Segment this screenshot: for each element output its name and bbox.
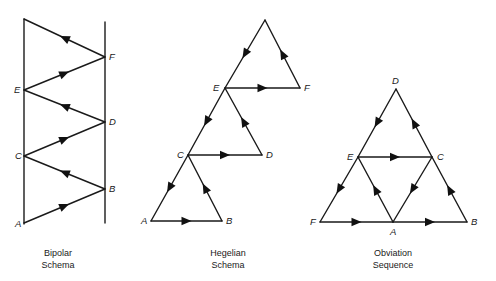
obviation-sequence-caption: Obviation Sequence: [348, 248, 438, 271]
caption-line-2: Schema: [13, 260, 103, 272]
vertex-label-D: D: [392, 75, 399, 86]
bipolar-schema-caption: Bipolar Schema: [13, 248, 103, 271]
arrowhead-icon: [239, 48, 251, 61]
hegelian-schema-caption: Hegelian Schema: [183, 248, 273, 271]
caption-line-1: Bipolar: [13, 248, 103, 260]
vertex-label-F: F: [109, 51, 116, 62]
caption-line-2: Schema: [183, 260, 273, 272]
caption-line-1: Hegelian: [183, 248, 273, 260]
arrowhead-icon: [58, 133, 70, 145]
caption-line-2: Sequence: [348, 260, 438, 272]
vertex-label-C: C: [437, 151, 444, 162]
arrowhead-icon: [58, 100, 70, 111]
obviation-sequence-diagram: DECFAB: [310, 75, 478, 237]
arrowhead-icon: [276, 48, 288, 61]
arrowhead-icon: [390, 153, 400, 161]
vertex-label-B: B: [226, 215, 233, 226]
vertex-label-E: E: [347, 151, 354, 162]
vertex-label-A: A: [140, 215, 147, 226]
arrowhead-icon: [408, 117, 420, 130]
arrowhead-icon: [406, 183, 418, 196]
vertex-label-A: A: [389, 226, 396, 237]
arrowhead-icon: [58, 200, 70, 212]
arrowhead-icon: [258, 84, 268, 92]
vertex-label-E: E: [213, 82, 220, 93]
arrowhead-icon: [200, 115, 212, 128]
arrowhead-icon: [443, 183, 455, 196]
caption-line-1: Obviation: [348, 248, 438, 260]
vertex-label-F: F: [304, 82, 311, 93]
arrowhead-icon: [425, 218, 435, 226]
vertex-label-B: B: [109, 183, 116, 194]
arrowhead-icon: [163, 182, 175, 195]
arrowhead-icon: [182, 217, 192, 225]
arrowhead-icon: [58, 167, 70, 179]
arrowhead-icon: [58, 68, 70, 80]
hegelian-schema-diagram: ABCDEF: [140, 20, 311, 226]
vertex-label-C: C: [177, 149, 184, 160]
arrowhead-icon: [58, 32, 71, 44]
vertex-label-F: F: [310, 216, 317, 227]
vertex-label-A: A: [14, 218, 21, 229]
arrowhead-icon: [220, 151, 230, 159]
arrowhead-icon: [352, 218, 362, 226]
arrowhead-icon: [199, 182, 211, 195]
arrowhead-icon: [333, 183, 345, 196]
vertex-label-B: B: [471, 216, 478, 227]
arrowhead-icon: [237, 115, 249, 128]
vertex-label-E: E: [14, 84, 21, 95]
vertex-label-D: D: [266, 149, 273, 160]
vertex-label-C: C: [15, 150, 22, 161]
vertex-label-D: D: [109, 116, 116, 127]
arrowhead-icon: [371, 117, 383, 130]
bipolar-schema-diagram: ABCDEF: [14, 19, 116, 229]
arrowhead-icon: [369, 183, 381, 196]
diagram-canvas: ABCDEF ABCDEF DECFAB: [0, 0, 496, 281]
